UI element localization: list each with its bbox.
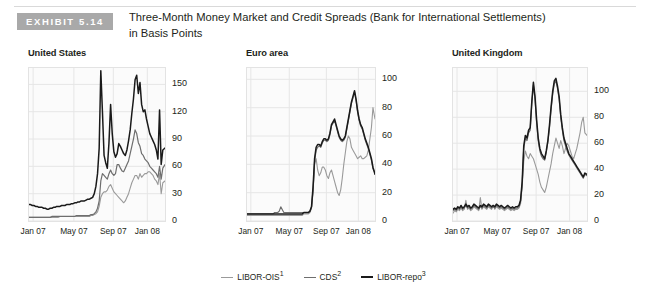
y-axis-tick-label: 80 — [594, 111, 604, 121]
exhibit-badge: EXHIBIT 5.14 — [17, 13, 113, 30]
chart-panel-2: Euro area020406080100Jan 07May 07Sep 07J… — [246, 48, 422, 263]
plot-area — [452, 67, 588, 222]
y-axis-tick-label: 30 — [172, 188, 182, 198]
x-axis-tick-label: Jan 07 — [437, 226, 477, 236]
legend-item-libor-repo: LIBOR-repo3 — [361, 272, 426, 282]
x-axis-tick-label: May 07 — [269, 226, 309, 236]
exhibit-page: EXHIBIT 5.14 Three-Month Money Market an… — [0, 0, 647, 303]
chart-panels: United States0306090120150Jan 07May 07Se… — [0, 48, 647, 263]
x-axis-tick-label: May 07 — [477, 226, 517, 236]
legend-item-cds: CDS2 — [304, 272, 342, 282]
plot-area — [28, 67, 166, 222]
y-axis-tick-label: 120 — [172, 106, 187, 116]
panel-title: United States — [28, 48, 86, 58]
y-axis-tick-label: 0 — [172, 215, 177, 225]
y-axis-tick-label: 20 — [382, 187, 392, 197]
y-axis-tick-label: 20 — [594, 189, 604, 199]
y-axis-tick-label: 150 — [172, 78, 187, 88]
series-line — [247, 91, 375, 214]
y-axis-tick-label: 0 — [382, 215, 387, 225]
legend-footnote-marker: 2 — [337, 270, 341, 277]
header-divider — [14, 6, 636, 7]
y-axis-tick-label: 80 — [382, 102, 392, 112]
legend-label: LIBOR-repo3 — [377, 272, 426, 282]
y-axis-tick-label: 60 — [382, 130, 392, 140]
legend-footnote-marker: 1 — [280, 270, 284, 277]
plot-area — [246, 67, 376, 222]
y-axis-tick-label: 40 — [594, 163, 604, 173]
y-axis-tick-label: 100 — [382, 73, 397, 83]
legend-swatch-icon — [361, 276, 373, 278]
y-axis-tick-label: 0 — [594, 215, 599, 225]
chart-panel-3: United Kingdom020406080100Jan 07May 07Se… — [452, 48, 634, 263]
x-axis-tick-label: Jan 08 — [338, 226, 378, 236]
series-line — [247, 108, 375, 216]
x-axis-tick-label: Jan 07 — [231, 226, 271, 236]
y-axis-tick-label: 60 — [172, 160, 182, 170]
legend-label: CDS2 — [320, 272, 342, 282]
panel-title: Euro area — [246, 48, 288, 58]
legend-footnote-marker: 3 — [422, 270, 426, 277]
x-axis-tick-label: Jan 08 — [127, 226, 167, 236]
series-line — [247, 92, 375, 214]
y-axis-tick-label: 90 — [172, 133, 182, 143]
exhibit-title-line-1: Three-Month Money Market and Credit Spre… — [129, 10, 634, 26]
legend-swatch-icon — [304, 277, 316, 278]
panel-title: United Kingdom — [452, 48, 522, 58]
exhibit-title: Three-Month Money Market and Credit Spre… — [129, 10, 634, 41]
y-axis-tick-label: 60 — [594, 137, 604, 147]
chart-legend: LIBOR-OIS1CDS2LIBOR-repo3 — [0, 272, 647, 282]
x-axis-tick-label: May 07 — [54, 226, 94, 236]
x-axis-tick-label: Jan 07 — [13, 226, 53, 236]
y-axis-tick-label: 40 — [382, 158, 392, 168]
series-line — [29, 71, 165, 209]
legend-swatch-icon — [221, 277, 233, 278]
x-axis-tick-label: Jan 08 — [550, 226, 590, 236]
chart-panel-1: United States0306090120150Jan 07May 07Se… — [28, 48, 212, 263]
legend-label: LIBOR-OIS1 — [237, 272, 283, 282]
y-axis-tick-label: 100 — [594, 85, 609, 95]
exhibit-title-line-2: in Basis Points — [129, 26, 634, 42]
legend-item-libor-ois: LIBOR-OIS1 — [221, 272, 283, 282]
